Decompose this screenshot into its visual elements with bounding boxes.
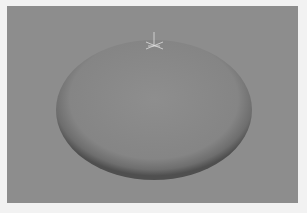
ellipsoid-object[interactable] [56, 40, 252, 180]
3d-viewport[interactable] [7, 6, 298, 203]
viewport-canvas[interactable] [7, 6, 298, 203]
